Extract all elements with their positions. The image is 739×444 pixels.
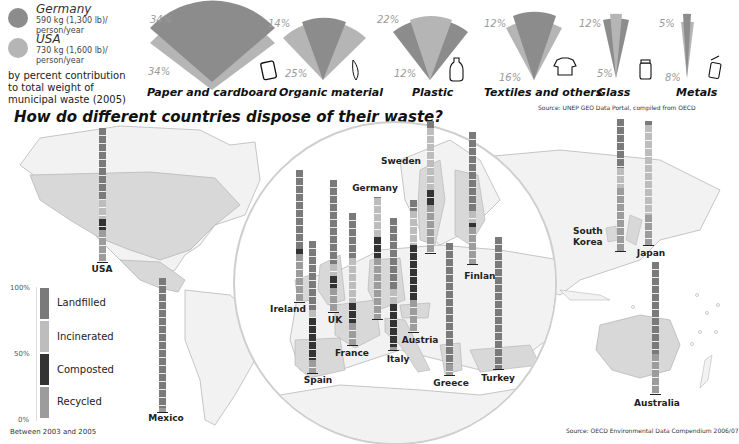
bar-baseline [372,319,383,320]
segment-recycled [617,188,624,251]
segment-composted [330,276,337,288]
segment-recycled [99,230,106,262]
segment-incinerated [390,289,397,304]
tick-50: 50% [14,350,30,358]
segment-incinerated [374,198,381,237]
segment-landfilled [410,200,417,211]
segment-landfilled [427,121,434,128]
legend-label-composted: Composted [57,364,114,375]
segment-recycled [349,323,356,345]
bar-baseline [425,253,436,254]
tick-100: 100% [10,284,30,292]
segment-composted [309,318,316,360]
segment-landfilled [99,128,106,200]
segment-incinerated [309,310,316,318]
bottom-source: Source: OECD Environmental Data Compendi… [566,427,739,434]
country-label: Spain [304,375,333,385]
legend-swatch-incinerated [40,321,49,352]
country-label: Austria [402,335,439,345]
segment-recycled [427,205,434,253]
country-label: USA [92,264,113,274]
country-label: Italy [387,354,410,364]
bar-france [349,213,356,345]
segment-recycled [296,254,303,302]
country-label: Australia [634,398,680,408]
segment-recycled [446,364,453,375]
segment-recycled [469,227,476,264]
legend-swatch-composted [40,354,49,385]
segment-recycled [309,360,316,373]
country-label: South Korea [573,226,607,248]
segment-composted [374,237,381,258]
bar-finland [469,132,476,264]
segment-landfilled [159,278,166,408]
bar-south-korea [617,119,624,251]
bar-baseline [493,369,504,370]
bar-ireland [296,170,303,302]
bar-germany [374,197,381,319]
tick-0: 0% [18,416,29,424]
bar-usa [99,128,106,262]
bar-baseline [294,302,305,303]
bar-mexico [159,278,166,412]
country-label: Ireland [270,304,306,314]
bar-baseline [347,345,358,346]
country-label: Sweden [381,156,421,166]
bar-austria [410,200,417,332]
segment-landfilled [469,132,476,211]
segment-incinerated [330,264,337,276]
segment-composted [427,190,434,206]
segment-incinerated [617,168,624,188]
segment-recycled [374,258,381,319]
segment-composted [99,219,106,230]
bar-spain [309,241,316,373]
legend-label-recycled: Recycled [57,396,102,407]
segment-incinerated [427,128,434,190]
segment-incinerated [469,211,476,223]
legend-label-incinerated: Incinerated [57,331,114,342]
country-label: Germany [352,183,398,193]
segment-landfilled [495,237,502,369]
segment-landfilled [652,262,659,354]
bar-italy [390,218,397,350]
segment-composted [349,303,356,323]
legend-swatch-landfilled [40,288,49,319]
bar-australia [652,262,659,394]
bar-baseline [467,264,478,265]
bar-baseline [307,373,318,374]
legend-footnote: Between 2003 and 2005 [10,428,96,436]
country-label: Turkey [481,373,515,383]
bar-turkey [495,237,502,369]
legend-swatch-recycled [40,387,49,418]
segment-landfilled [390,218,397,289]
bar-baseline [643,245,654,246]
segment-landfilled [296,170,303,249]
segment-landfilled [309,241,316,310]
bar-baseline [650,394,661,395]
bar-baseline [388,350,399,351]
segment-recycled [410,300,417,332]
country-label: France [335,348,369,358]
legend-label-landfilled: Landfilled [57,297,106,308]
country-label: Mexico [148,413,183,423]
bar-greece [446,243,453,375]
segment-incinerated [410,211,417,245]
segment-composted [410,245,417,300]
bar-uk [330,180,337,312]
segment-recycled [645,215,652,245]
segment-landfilled [617,119,624,168]
segment-composted [390,304,397,348]
country-label: Greece [433,378,468,388]
bar-sweden [427,121,434,253]
bar-baseline [615,251,626,252]
bar-japan [645,121,652,245]
segment-recycled [652,354,659,394]
segment-incinerated [99,200,106,219]
bar-baseline [408,332,419,333]
country-label: UK [328,315,342,325]
segment-incinerated [645,125,652,216]
segment-landfilled [330,180,337,264]
bar-baseline [328,312,339,313]
bar-baseline [97,262,108,263]
segment-landfilled [446,243,453,364]
